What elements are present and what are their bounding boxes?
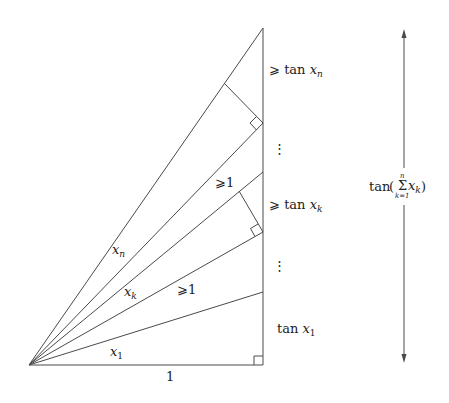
- vdots-upper: ⋮: [273, 141, 286, 156]
- perpendicular-n: [224, 83, 263, 123]
- tan-x1-label: tan x1: [277, 321, 316, 338]
- vdots-lower: ⋮: [273, 258, 286, 273]
- ray-k-lower: [29, 232, 263, 365]
- ge-tan-xk-label: ⩾ tan xk: [269, 197, 322, 214]
- ge1-lower-label: ⩾1: [177, 282, 196, 297]
- arrowhead-up-icon: [402, 29, 407, 38]
- svg-text:tan: tan: [369, 179, 391, 194]
- right-angle-mark-n: [250, 117, 257, 131]
- svg-text:k=1: k=1: [395, 192, 410, 200]
- arrowhead-down-icon: [402, 354, 407, 363]
- right-angle-mark-base: [254, 356, 263, 365]
- angle-xk-label: xk: [124, 284, 137, 301]
- right-angle-mark-k: [251, 224, 259, 237]
- ray-k-upper: [29, 172, 263, 365]
- angle-xn-label: xn: [112, 242, 125, 259]
- tan-sum-label: tan ( n Σ k=1 xk ): [369, 172, 426, 200]
- angle-x1-label: x1: [110, 344, 123, 361]
- ge1-upper-label: ⩾1: [215, 175, 234, 190]
- perpendicular-k: [239, 191, 263, 232]
- ray-n-upper: [29, 28, 263, 365]
- base-label: 1: [166, 369, 174, 384]
- ge-tan-xn-label: ⩾ tan xn: [269, 62, 323, 79]
- tan-sum-diagram: 1 x1 xk xn ⩾1 ⩾1 tan x1 ⩾ tan xk ⩾ tan x…: [0, 0, 449, 403]
- svg-text:): ): [421, 179, 426, 194]
- svg-text:(: (: [389, 179, 394, 194]
- svg-text:xk: xk: [408, 178, 421, 195]
- svg-text:Σ: Σ: [398, 178, 407, 193]
